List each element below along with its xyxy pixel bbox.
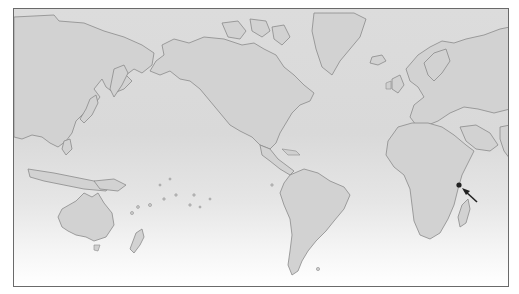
iceland [370, 55, 386, 65]
north-america [150, 37, 314, 149]
cuba [282, 149, 300, 155]
location-arrow-icon [462, 188, 477, 202]
india [500, 125, 509, 159]
tasmania [94, 245, 100, 251]
falklands [316, 267, 319, 270]
greenland [312, 13, 366, 75]
galapagos [271, 184, 273, 186]
south-america [280, 169, 350, 275]
pacific-islands [131, 178, 212, 215]
location-marker-dot [456, 182, 461, 187]
madagascar [458, 199, 470, 227]
europe [406, 27, 509, 125]
british-isles [392, 75, 404, 93]
new-zealand [130, 229, 144, 253]
australia [58, 193, 114, 241]
asia-east [14, 15, 154, 147]
arctic-islands [222, 19, 290, 45]
ireland [386, 81, 391, 89]
philippines [62, 139, 72, 155]
indonesia [28, 169, 109, 191]
world-map [14, 9, 509, 287]
central-america [260, 145, 294, 175]
map-frame [13, 8, 509, 287]
